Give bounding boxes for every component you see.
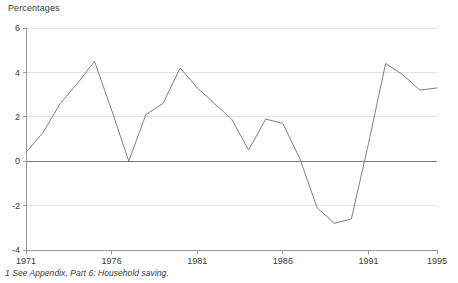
gridline-group — [26, 28, 437, 250]
x-axis-tick-label: 1991 — [358, 256, 378, 266]
chart-footnote: 1 See Appendix, Part 6: Household saving… — [5, 268, 169, 278]
y-axis-tick-group: 6420-2-4 — [12, 23, 26, 255]
x-axis-tick-label: 1976 — [102, 256, 122, 266]
x-axis-tick-label: 1986 — [273, 256, 293, 266]
x-axis-tick-group: 197119761981198619911995 — [16, 250, 447, 266]
y-axis-tick-label: 0 — [15, 156, 20, 166]
data-series-group — [26, 61, 437, 223]
y-axis-tick-label: -4 — [12, 245, 20, 255]
x-axis-tick-label: 1981 — [187, 256, 207, 266]
x-axis-tick-label: 1971 — [16, 256, 36, 266]
y-axis-tick-label: -2 — [12, 201, 20, 211]
data-line — [26, 61, 437, 223]
y-axis-tick-label: 6 — [15, 23, 20, 33]
y-axis-tick-label: 2 — [15, 112, 20, 122]
line-chart-plot: 6420-2-4 197119761981198619911995 — [0, 0, 458, 283]
y-axis-tick-label: 4 — [15, 68, 20, 78]
x-axis-tick-label: 1995 — [427, 256, 447, 266]
chart-container: Percentages 6420-2-4 1971197619811986199… — [0, 0, 458, 283]
